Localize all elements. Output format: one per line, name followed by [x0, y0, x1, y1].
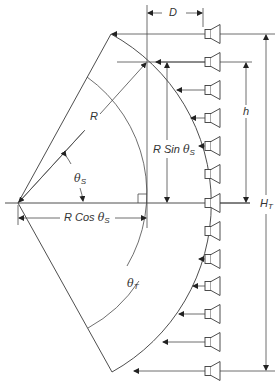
theta-s-arc-lower	[80, 188, 83, 201]
speaker-6	[205, 165, 220, 184]
speaker-icon	[205, 362, 220, 381]
theta-t-arc	[87, 77, 147, 266]
speaker-icon	[205, 137, 220, 156]
speaker-9	[199, 250, 220, 269]
line-array-diagram: D R R Sin θS θS R Cos θS h HT θT	[0, 0, 279, 387]
speaker-icon	[205, 109, 220, 128]
right-angle-marker	[138, 194, 147, 203]
speaker-icon	[205, 250, 220, 269]
speaker-icon	[205, 277, 220, 296]
speaker-4	[191, 109, 220, 128]
speaker-icon	[205, 165, 220, 184]
diagram-canvas	[0, 0, 279, 387]
speaker-icon	[205, 333, 220, 352]
speaker-3	[177, 81, 220, 100]
speaker-11	[179, 305, 220, 324]
speaker-icon	[205, 305, 220, 324]
label-h-t: HT	[259, 198, 274, 212]
speaker-icon	[205, 81, 220, 100]
speaker-7	[205, 194, 250, 213]
speaker-1	[112, 25, 220, 44]
label-theta-s: θS	[73, 173, 87, 187]
speaker-13	[134, 362, 220, 381]
label-r-cos-theta-s: R Cos θS	[63, 212, 111, 226]
speaker-icon	[205, 222, 220, 241]
label-r-sin-theta-s: R Sin θS	[152, 144, 196, 158]
label-r: R	[89, 111, 99, 122]
speaker-8	[205, 222, 220, 241]
theta-s-arc-upper	[66, 156, 71, 164]
speaker-2	[156, 53, 220, 72]
speaker-icon	[205, 25, 220, 44]
radius-arrow-upper	[100, 63, 146, 114]
speaker-12	[163, 333, 220, 352]
label-h: h	[242, 106, 250, 117]
speaker-5	[199, 137, 220, 156]
speaker-10	[193, 277, 220, 296]
label-d: D	[168, 7, 178, 18]
speaker-icon	[205, 194, 220, 213]
label-theta-t: θT	[126, 278, 140, 292]
sector-bottom-edge	[18, 203, 112, 372]
speaker-icon	[205, 53, 220, 72]
